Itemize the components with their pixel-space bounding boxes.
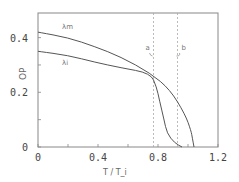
x-tick-label: 0.4 (89, 152, 107, 163)
arrow-icon (177, 53, 180, 56)
plot-frame (38, 13, 218, 147)
y-tick-label: 0 (22, 142, 28, 153)
data-curves: λmλi (38, 23, 194, 147)
curve-λi (38, 51, 182, 147)
y-tick-label: 0.4 (10, 33, 28, 44)
curve-label: λm (62, 23, 73, 31)
y-axis-title: OP (18, 67, 28, 80)
plot-border (38, 13, 218, 147)
vline-label-a: a (146, 44, 150, 52)
x-tick-label: 1.2 (209, 152, 227, 163)
x-axis-title: T / T_i (102, 168, 127, 177)
curve-λm (38, 32, 194, 147)
curve-label: λi (62, 59, 68, 67)
x-tick-label: 0 (35, 152, 41, 163)
y-tick-label: 0.2 (10, 87, 28, 98)
x-tick-label: 0.8 (149, 152, 167, 163)
chart: ab λmλi 00.40.81.200.20.4 T / T_i OP (0, 0, 239, 182)
vline-label-b: b (182, 44, 187, 52)
arrow-icon (150, 53, 153, 56)
